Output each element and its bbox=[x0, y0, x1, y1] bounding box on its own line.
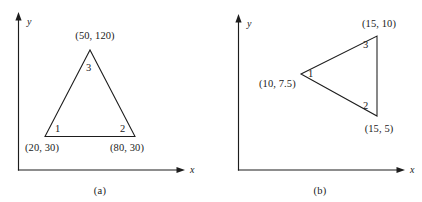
y-axis-label: y bbox=[27, 17, 31, 27]
y-axis-arrowhead bbox=[15, 12, 21, 21]
panel-b-caption: (b) bbox=[314, 186, 327, 197]
panel-a-caption: (a) bbox=[94, 186, 106, 197]
vertex-2-number: 2 bbox=[363, 101, 368, 112]
vertex-1-coordinate-label: (20, 30) bbox=[25, 143, 59, 154]
vertex-2-coordinate-label: (15, 5) bbox=[365, 124, 394, 135]
y-axis-arrowhead bbox=[235, 14, 241, 23]
vertex-2-coordinate-label: (80, 30) bbox=[110, 143, 144, 154]
figure-root: y x (50, 120) 3 1 (20, 30) 2 (80, 30) (a… bbox=[0, 0, 422, 202]
x-axis-arrowhead bbox=[397, 167, 406, 173]
x-axis-arrowhead bbox=[177, 167, 186, 173]
x-axis-label: x bbox=[410, 165, 414, 175]
vertex-1-number: 1 bbox=[308, 69, 313, 80]
vertex-3-coordinate-label: (15, 10) bbox=[362, 19, 396, 30]
vertex-3-number: 3 bbox=[363, 40, 368, 51]
panel-a: y x (50, 120) 3 1 (20, 30) 2 (80, 30) (a… bbox=[0, 0, 211, 202]
panel-b-graphic bbox=[211, 0, 422, 202]
vertex-3-coordinate-label: (50, 120) bbox=[75, 31, 114, 42]
vertex-1-number: 1 bbox=[55, 124, 60, 135]
vertex-3-number: 3 bbox=[86, 63, 91, 74]
vertex-2-number: 2 bbox=[120, 124, 125, 135]
vertex-1-coordinate-label: (10, 7.5) bbox=[259, 79, 296, 90]
panel-b: y x (15, 10) 3 1 (10, 7.5) 2 (15, 5) (b) bbox=[211, 0, 422, 202]
y-axis-label: y bbox=[247, 19, 251, 29]
x-axis-label: x bbox=[190, 165, 194, 175]
